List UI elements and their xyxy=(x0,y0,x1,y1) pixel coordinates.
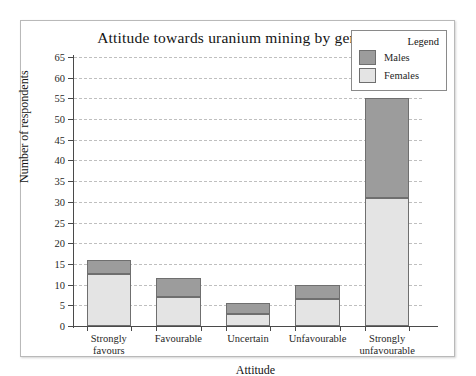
legend-entry[interactable]: Males xyxy=(359,50,439,65)
y-tick-mark xyxy=(68,98,74,99)
legend-entry[interactable]: Females xyxy=(359,68,439,83)
bar-segment-females[interactable] xyxy=(226,314,271,326)
y-tick-label: 45 xyxy=(55,134,66,145)
y-tick-mark xyxy=(68,223,74,224)
x-tick-label: Strongly favours xyxy=(74,333,144,357)
bar-segment-males[interactable] xyxy=(365,98,410,197)
y-tick-mark xyxy=(68,119,74,120)
bar-segment-males[interactable] xyxy=(156,278,201,297)
y-tick-label: 10 xyxy=(55,279,66,290)
y-tick-mark xyxy=(68,181,74,182)
x-tick-mark xyxy=(156,326,157,331)
x-axis-title: Attitude xyxy=(73,363,438,376)
x-tick-label: Unfavourable xyxy=(283,333,353,345)
bar-segment-males[interactable] xyxy=(295,285,340,299)
y-tick-mark xyxy=(68,305,74,306)
legend-label: Males xyxy=(384,52,410,63)
bar-segment-males[interactable] xyxy=(87,260,132,274)
x-tick-mark xyxy=(340,326,341,331)
x-tick-mark xyxy=(131,326,132,331)
x-tick-label: Favourable xyxy=(144,333,214,345)
y-tick-mark xyxy=(68,202,74,203)
figure-frame: Attitude towards uranium mining by gende… xyxy=(20,20,455,357)
bar-segment-females[interactable] xyxy=(156,297,201,326)
bar-group[interactable] xyxy=(156,57,201,326)
y-tick-label: 20 xyxy=(55,238,66,249)
x-tick-mark xyxy=(295,326,296,331)
y-tick-mark xyxy=(68,57,74,58)
x-tick-label: Strongly unfavourable xyxy=(352,333,422,357)
y-tick-label: 5 xyxy=(60,300,65,311)
y-tick-label: 65 xyxy=(55,52,66,63)
y-tick-label: 0 xyxy=(60,321,65,332)
y-tick-mark xyxy=(68,285,74,286)
y-tick-label: 15 xyxy=(55,258,66,269)
y-tick-label: 30 xyxy=(55,196,66,207)
bar-group[interactable] xyxy=(295,57,340,326)
bar-segment-females[interactable] xyxy=(365,198,410,326)
bar-segment-males[interactable] xyxy=(226,303,271,313)
y-axis-title: Number of respondents xyxy=(17,70,32,183)
bar-group[interactable] xyxy=(87,57,132,326)
y-tick-label: 40 xyxy=(55,155,66,166)
x-tick-mark xyxy=(87,326,88,331)
x-tick-mark xyxy=(201,326,202,331)
bar-group[interactable] xyxy=(365,57,410,326)
x-axis-line xyxy=(73,326,438,327)
bar-segment-females[interactable] xyxy=(87,274,132,326)
y-tick-label: 25 xyxy=(55,217,66,228)
legend-swatch-icon xyxy=(359,68,376,83)
legend: Legend MalesFemales xyxy=(351,30,447,91)
x-tick-label: Uncertain xyxy=(213,333,283,345)
y-tick-label: 60 xyxy=(55,72,66,83)
y-tick-label: 55 xyxy=(55,93,66,104)
bar-segment-females[interactable] xyxy=(295,299,340,326)
legend-title: Legend xyxy=(359,36,439,47)
x-tick-mark xyxy=(226,326,227,331)
y-tick-mark xyxy=(68,264,74,265)
y-tick-mark xyxy=(68,140,74,141)
y-tick-mark xyxy=(68,243,74,244)
x-tick-mark xyxy=(365,326,366,331)
legend-swatch-icon xyxy=(359,50,376,65)
legend-entries: MalesFemales xyxy=(359,50,439,83)
x-tick-mark xyxy=(409,326,410,331)
plot-area: 05101520253035404550556065 xyxy=(74,57,422,326)
y-tick-label: 50 xyxy=(55,114,66,125)
y-tick-mark xyxy=(68,326,74,327)
y-tick-mark xyxy=(68,78,74,79)
bar-group[interactable] xyxy=(226,57,271,326)
y-tick-mark xyxy=(68,160,74,161)
y-tick-label: 35 xyxy=(55,176,66,187)
legend-label: Females xyxy=(384,70,419,81)
x-tick-mark xyxy=(270,326,271,331)
